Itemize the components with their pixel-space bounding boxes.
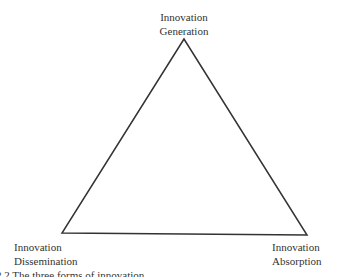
triangle-shape — [62, 39, 307, 235]
figure-caption: 2.2 The three forms of innovation — [0, 268, 144, 277]
triangle-diagram — [0, 0, 352, 277]
node-label-line1: Innovation — [134, 10, 234, 24]
node-label-line1: Innovation — [272, 240, 352, 254]
node-label-line2: Generation — [134, 24, 234, 38]
node-label-line2: Dissemination — [14, 254, 94, 268]
node-label-line2: Absorption — [272, 254, 352, 268]
node-innovation-generation: Innovation Generation — [134, 10, 234, 38]
node-innovation-dissemination: Innovation Dissemination — [14, 240, 94, 268]
node-innovation-absorption: Innovation Absorption — [272, 240, 352, 268]
node-label-line1: Innovation — [14, 240, 94, 254]
